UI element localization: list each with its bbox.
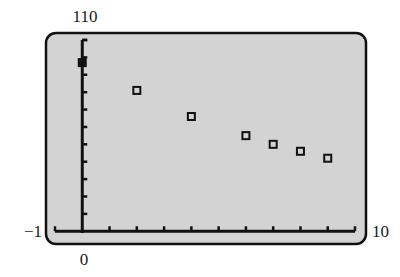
data-point-marker: [297, 148, 304, 155]
data-point-marker: [242, 132, 249, 139]
y-min-label: −1: [14, 223, 42, 240]
data-point-marker: [133, 87, 140, 94]
data-point-marker: [270, 141, 277, 148]
x-max-label: 10: [372, 223, 398, 240]
calculator-screen: [0, 0, 400, 277]
y-max-label: 110: [70, 8, 100, 25]
data-point-marker: [79, 59, 86, 66]
data-point-marker: [324, 155, 331, 162]
x-origin-label: 0: [76, 251, 92, 268]
screen-frame: [46, 33, 366, 244]
data-point-marker: [188, 113, 195, 120]
